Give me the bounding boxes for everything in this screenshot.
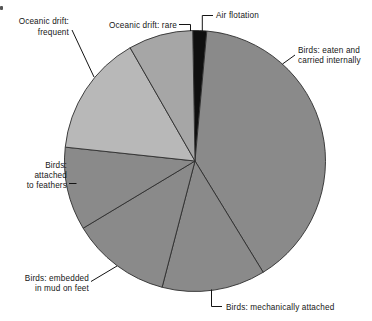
label-leader-birds-mechanically-attached — [212, 290, 223, 307]
label-leader-oceanic-drift-rare — [179, 25, 191, 32]
slice-label-birds-eaten-and-carried-internally: Birds: eaten andcarried internally — [298, 46, 362, 65]
slice-label-birds-embedded-in-mud-on-feet: Birds: embeddedin mud on feet — [25, 274, 90, 293]
slice-label-oceanic-drift-frequent: Oceanic drift:frequent — [19, 17, 70, 37]
label-leader-birds-embedded-in-mud-on-feet — [91, 266, 117, 282]
pie-chart: Air flotationBirds: eaten andcarried int… — [0, 0, 372, 321]
label-leader-oceanic-drift-frequent — [72, 30, 94, 77]
scan-artifact — [0, 6, 3, 10]
slice-label-birds-attached-to-feathers: Birds:attachedto feathers — [27, 161, 68, 190]
label-leader-birds-eaten-and-carried-internally — [283, 55, 296, 64]
label-leader-air-flotation — [202, 16, 213, 32]
slice-label-birds-mechanically-attached: Birds: mechanically attached — [226, 303, 335, 312]
figure-canvas: Air flotationBirds: eaten andcarried int… — [0, 0, 372, 321]
slice-label-oceanic-drift-rare: Oceanic drift: rare — [109, 21, 177, 30]
slice-label-air-flotation: Air flotation — [216, 11, 259, 20]
